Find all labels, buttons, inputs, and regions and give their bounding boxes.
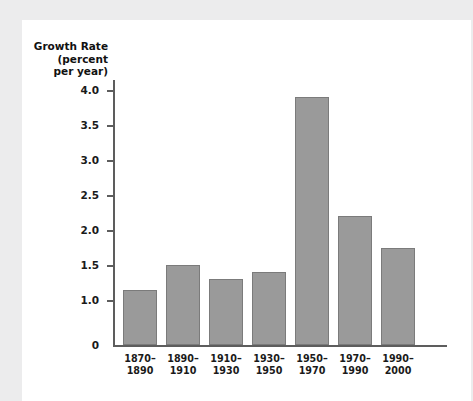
y-tick-mark bbox=[107, 90, 114, 92]
bar bbox=[381, 248, 415, 346]
y-tick-mark bbox=[107, 125, 114, 127]
y-tick-mark bbox=[107, 230, 114, 232]
y-axis-title: Growth Rate (percent per year) bbox=[22, 40, 108, 78]
chart-card: Growth Rate (percent per year) 4.03.53.0… bbox=[22, 20, 471, 401]
y-tick-label: 1.0 bbox=[22, 295, 99, 305]
y-tick-label: 4.0 bbox=[22, 85, 99, 95]
bar bbox=[166, 265, 200, 345]
y-axis-line bbox=[113, 80, 115, 346]
x-tick-label: 1930– 1950 bbox=[245, 353, 293, 377]
y-tick-label: 2.0 bbox=[22, 225, 99, 235]
y-tick-mark bbox=[107, 300, 114, 302]
x-tick-label: 1890– 1910 bbox=[159, 353, 207, 377]
bar-chart: Growth Rate (percent per year) 4.03.53.0… bbox=[22, 20, 471, 401]
x-tick-label: 1950– 1970 bbox=[288, 353, 336, 377]
bar bbox=[209, 279, 243, 345]
y-tick-label: 0 bbox=[22, 340, 99, 350]
x-tick-label: 1990– 2000 bbox=[374, 353, 422, 377]
y-tick-label: 3.5 bbox=[22, 120, 99, 130]
x-tick-label: 1870– 1890 bbox=[116, 353, 164, 377]
y-tick-label: 1.5 bbox=[22, 260, 99, 270]
bar bbox=[252, 272, 286, 345]
x-tick-label: 1910– 1930 bbox=[202, 353, 250, 377]
bar bbox=[338, 216, 372, 345]
y-tick-mark bbox=[107, 265, 114, 267]
y-tick-mark bbox=[107, 195, 114, 197]
y-tick-mark bbox=[107, 160, 114, 162]
bar bbox=[295, 97, 329, 345]
x-axis-line bbox=[113, 345, 447, 347]
y-tick-label: 2.5 bbox=[22, 190, 99, 200]
y-tick-label: 3.0 bbox=[22, 155, 99, 165]
bar bbox=[123, 290, 157, 346]
x-tick-label: 1970– 1990 bbox=[331, 353, 379, 377]
